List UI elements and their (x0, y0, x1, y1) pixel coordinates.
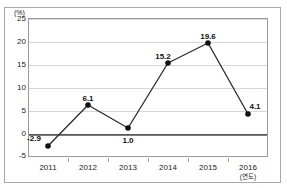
data-point-2012 (85, 102, 91, 108)
chart-figure: (%) 25 20 15 10 5 0 -5 2011 2012 2013 20… (0, 0, 287, 188)
x-tick-label-2016: 2016 (연도) (226, 163, 270, 181)
x-tick-2015-text: 2015 (199, 163, 217, 172)
y-tick-label-neg5: -5 (4, 152, 26, 160)
x-tick-mark-4 (188, 158, 189, 162)
data-point-2016 (245, 111, 251, 117)
data-label-2011: -2.9 (17, 134, 51, 143)
x-axis-unit-label: (연도) (226, 173, 270, 181)
data-point-2011 (45, 143, 51, 149)
y-tick-label-15: 15 (4, 61, 26, 69)
y-tick-label-10: 10 (4, 84, 26, 92)
data-label-2012: 6.1 (71, 94, 105, 103)
y-tick-label-5: 5 (4, 107, 26, 115)
data-label-2016: 4.1 (238, 102, 272, 111)
y-tick-label-20: 20 (4, 38, 26, 46)
chart-title-cropped (40, 0, 255, 5)
y-tick-label-25: 25 (4, 15, 26, 23)
x-tick-mark-3 (148, 158, 149, 162)
x-tick-2014-text: 2014 (159, 163, 177, 172)
data-point-2013 (125, 125, 131, 131)
x-tick-mark-5 (228, 158, 229, 162)
x-tick-label-2011: 2011 (26, 163, 70, 173)
data-label-2015: 19.6 (191, 32, 225, 41)
x-tick-2012-text: 2012 (79, 163, 97, 172)
data-label-2013: 1.0 (111, 136, 145, 145)
data-label-2014: 15.2 (146, 52, 180, 61)
x-tick-2016-text: 2016 (239, 163, 257, 172)
x-tick-label-2015: 2015 (186, 163, 230, 173)
x-tick-label-2012: 2012 (66, 163, 110, 173)
x-tick-label-2014: 2014 (146, 163, 190, 173)
x-tick-label-2013: 2013 (106, 163, 150, 173)
x-tick-mark-1 (68, 158, 69, 162)
x-tick-mark-2 (108, 158, 109, 162)
data-point-2015 (205, 40, 211, 46)
x-tick-2011-text: 2011 (39, 163, 56, 172)
data-point-2014 (165, 60, 171, 66)
x-tick-2013-text: 2013 (119, 163, 137, 172)
series-line-layer (28, 18, 268, 157)
